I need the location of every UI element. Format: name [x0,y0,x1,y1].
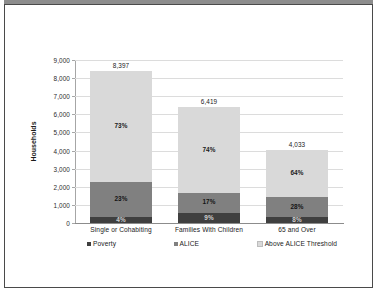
legend-item-above-alice-threshold[interactable]: Above ALICE Threshold [257,240,337,247]
y-axis-tick-label: 3,000 [54,165,71,172]
y-axis-tick-label: 2,000 [54,183,71,190]
legend-swatch-above-alice-icon [257,241,263,247]
legend-item-alice[interactable]: ALICE [174,240,200,247]
y-axis-tick-label: 7,000 [54,93,71,100]
bar-segment-alice[interactable]: 17% [178,193,240,213]
bar-segment-above-alice-threshold[interactable]: 73% [90,71,152,182]
y-axis-tick [72,132,75,133]
bar-segment-percent-label: 17% [202,199,215,205]
legend-label-above-alice-threshold: Above ALICE Threshold [265,240,337,247]
y-axis-tick-label: 8,000 [54,75,71,82]
bar-segment-percent-label: 28% [290,204,303,210]
x-axis-category-label: 65 and Over [237,226,357,233]
legend-label-alice: ALICE [180,240,200,247]
bar-segment-percent-label: 64% [290,170,303,176]
legend-swatch-alice-icon [174,242,178,246]
gridline [75,60,343,61]
y-axis-tick-label: 1,000 [54,201,71,208]
legend-label-poverty: Poverty [93,240,116,247]
y-axis-tick [72,187,75,188]
chart-legend: Poverty ALICE Above ALICE Threshold [75,240,343,247]
y-axis-tick-label: 6,000 [54,111,71,118]
y-axis-title: Households [27,60,39,223]
bar-segment-poverty[interactable]: 4% [90,217,152,223]
legend-item-poverty[interactable]: Poverty [87,240,116,247]
y-axis-tick-label: 4,000 [54,147,71,154]
bar-segment-percent-label: 73% [114,123,127,129]
y-axis-tick [72,169,75,170]
y-axis-tick [72,223,75,224]
screenshot-root: Households 01,0002,0003,0004,0005,0006,0… [0,0,379,296]
y-axis-tick [72,96,75,97]
bar-segment-percent-label: 4% [116,217,125,223]
gridline [75,223,343,224]
chart-figure: Households 01,0002,0003,0004,0005,0006,0… [5,5,374,289]
bar-segment-above-alice-threshold[interactable]: 64% [266,150,328,197]
bar-segment-percent-label: 9% [204,215,213,221]
bar-column[interactable]: 4,03364%28%8% [266,150,328,223]
bar-segment-poverty[interactable]: 9% [178,213,240,223]
bar-column[interactable]: 8,39773%23%4% [90,71,152,223]
bar-segment-percent-label: 74% [202,147,215,153]
bar-column[interactable]: 6,41974%17%9% [178,107,240,223]
y-axis-tick-label: 9,000 [54,57,71,64]
legend-swatch-poverty-icon [87,242,91,246]
y-axis-tick-label: 5,000 [54,129,71,136]
y-axis-tick [72,60,75,61]
y-axis-tick [72,205,75,206]
bar-total-label: 4,033 [266,141,328,148]
bar-segment-poverty[interactable]: 8% [266,217,328,223]
bar-segment-percent-label: 8% [292,217,301,223]
bar-segment-alice[interactable]: 23% [90,182,152,217]
y-axis-title-text: Households [30,121,37,161]
bar-total-label: 8,397 [90,62,152,69]
y-axis-tick [72,114,75,115]
bar-segment-above-alice-threshold[interactable]: 74% [178,107,240,193]
y-axis-tick [72,151,75,152]
bar-segment-alice[interactable]: 28% [266,197,328,217]
bar-segment-percent-label: 23% [114,196,127,202]
bar-total-label: 6,419 [178,98,240,105]
y-axis-tick [72,78,75,79]
page-frame: Households 01,0002,0003,0004,0005,0006,0… [4,4,373,288]
plot-area: 01,0002,0003,0004,0005,0006,0007,0008,00… [75,60,343,223]
